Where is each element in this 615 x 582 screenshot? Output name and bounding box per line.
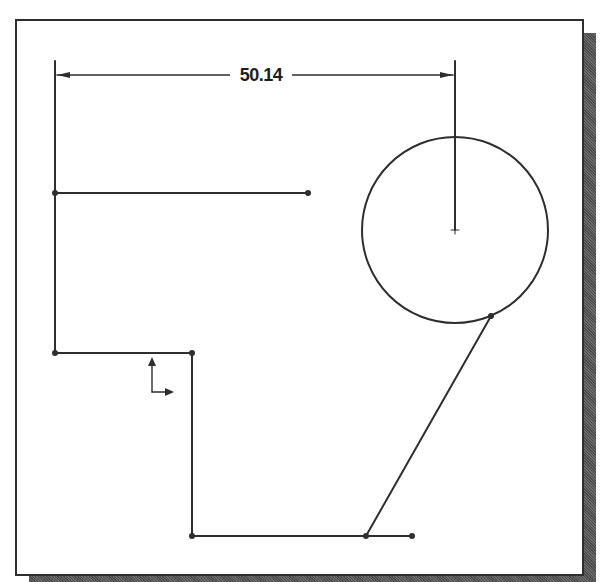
sketch-point[interactable] [189,350,195,356]
sketch-point[interactable] [363,533,369,539]
sketch-point[interactable] [52,190,58,196]
sketch-point[interactable] [52,350,58,356]
sketch-point[interactable] [305,190,311,196]
dimension-label[interactable]: 50.14 [230,63,292,87]
sketch-point[interactable] [409,533,415,539]
origin-arrow-up-icon [148,357,156,366]
sketch-canvas [0,0,615,582]
sketch-point[interactable] [189,533,195,539]
dimension-arrow-right-icon [440,72,453,78]
sketch-point[interactable] [488,313,494,319]
dimension-arrow-left-icon [57,72,70,78]
origin-arrow-right-icon [165,388,174,396]
origin-icon [152,362,166,392]
slanted-line[interactable] [366,316,491,536]
